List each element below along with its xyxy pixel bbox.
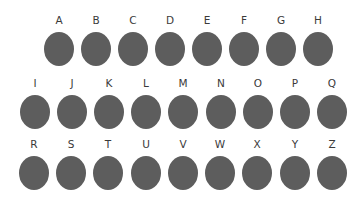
letter-key-b[interactable]: B: [81, 14, 111, 70]
letter-label: V: [168, 138, 198, 150]
letter-key-h[interactable]: H: [303, 14, 333, 70]
letter-key-u[interactable]: U: [131, 138, 161, 194]
circle-button[interactable]: [168, 95, 198, 129]
letter-label: G: [266, 14, 296, 26]
circle-button[interactable]: [192, 32, 222, 66]
letter-key-k[interactable]: K: [94, 77, 124, 133]
letter-label: Q: [317, 77, 347, 89]
letter-label: Y: [280, 138, 310, 150]
circle-button[interactable]: [206, 95, 236, 129]
letter-key-d[interactable]: D: [155, 14, 185, 70]
letter-key-j[interactable]: J: [57, 77, 87, 133]
circle-button[interactable]: [280, 95, 310, 129]
letter-label: N: [206, 77, 236, 89]
letter-label: A: [44, 14, 74, 26]
letter-label: E: [192, 14, 222, 26]
letter-label: H: [303, 14, 333, 26]
letter-label: F: [229, 14, 259, 26]
circle-button[interactable]: [19, 156, 49, 190]
circle-button[interactable]: [57, 95, 87, 129]
circle-button[interactable]: [243, 95, 273, 129]
letter-key-f[interactable]: F: [229, 14, 259, 70]
letter-label: R: [19, 138, 49, 150]
letter-label: W: [205, 138, 235, 150]
letter-label: X: [242, 138, 272, 150]
circle-button[interactable]: [168, 156, 198, 190]
letter-label: D: [155, 14, 185, 26]
letter-key-z[interactable]: Z: [317, 138, 347, 194]
letter-label: L: [131, 77, 161, 89]
letter-label: C: [118, 14, 148, 26]
letter-label: J: [57, 77, 87, 89]
letter-key-r[interactable]: R: [19, 138, 49, 194]
circle-button[interactable]: [280, 156, 310, 190]
letter-key-s[interactable]: S: [56, 138, 86, 194]
letter-key-o[interactable]: O: [243, 77, 273, 133]
circle-button[interactable]: [155, 32, 185, 66]
letter-key-m[interactable]: M: [168, 77, 198, 133]
circle-button[interactable]: [229, 32, 259, 66]
letter-label: B: [81, 14, 111, 26]
letter-key-g[interactable]: G: [266, 14, 296, 70]
letter-label: U: [131, 138, 161, 150]
circle-button[interactable]: [118, 32, 148, 66]
circle-button[interactable]: [317, 156, 347, 190]
letter-label: S: [56, 138, 86, 150]
letter-key-x[interactable]: X: [242, 138, 272, 194]
letter-label: I: [20, 77, 50, 89]
circle-button[interactable]: [242, 156, 272, 190]
circle-button[interactable]: [266, 32, 296, 66]
letter-label: O: [243, 77, 273, 89]
letter-key-w[interactable]: W: [205, 138, 235, 194]
letter-label: K: [94, 77, 124, 89]
circle-button[interactable]: [81, 32, 111, 66]
letter-label: T: [93, 138, 123, 150]
letter-key-q[interactable]: Q: [317, 77, 347, 133]
letter-key-a[interactable]: A: [44, 14, 74, 70]
letter-key-v[interactable]: V: [168, 138, 198, 194]
circle-button[interactable]: [317, 95, 347, 129]
circle-button[interactable]: [303, 32, 333, 66]
circle-button[interactable]: [131, 95, 161, 129]
letter-label: P: [280, 77, 310, 89]
letter-key-p[interactable]: P: [280, 77, 310, 133]
letter-key-t[interactable]: T: [93, 138, 123, 194]
letter-key-l[interactable]: L: [131, 77, 161, 133]
letter-label: Z: [317, 138, 347, 150]
circle-button[interactable]: [93, 156, 123, 190]
circle-button[interactable]: [205, 156, 235, 190]
letter-key-y[interactable]: Y: [280, 138, 310, 194]
letter-key-i[interactable]: I: [20, 77, 50, 133]
letter-key-c[interactable]: C: [118, 14, 148, 70]
letter-key-n[interactable]: N: [206, 77, 236, 133]
circle-button[interactable]: [56, 156, 86, 190]
circle-button[interactable]: [94, 95, 124, 129]
circle-button[interactable]: [44, 32, 74, 66]
circle-button[interactable]: [131, 156, 161, 190]
circle-button[interactable]: [20, 95, 50, 129]
letter-key-e[interactable]: E: [192, 14, 222, 70]
letter-label: M: [168, 77, 198, 89]
